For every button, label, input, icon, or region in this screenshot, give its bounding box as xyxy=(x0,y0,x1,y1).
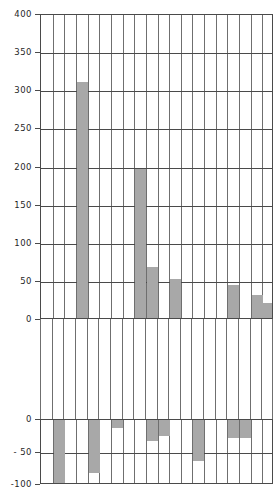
lower-plot-area xyxy=(40,419,273,484)
upper-axis-label: 400 xyxy=(0,9,32,19)
lower-axis-tick xyxy=(35,452,40,453)
upper-axis-label: 250 xyxy=(0,123,32,133)
bar-negative xyxy=(112,420,123,428)
upper-axis-tick xyxy=(35,281,40,282)
lower-column-gridline xyxy=(111,420,112,483)
bar-negative xyxy=(54,420,65,484)
bar-negative xyxy=(240,420,251,438)
upper-axis-tick xyxy=(35,319,40,320)
lower-panel xyxy=(0,0,278,497)
upper-axis-tick xyxy=(35,243,40,244)
lower-axis-tick xyxy=(35,484,40,485)
upper-axis-tick xyxy=(35,167,40,168)
upper-axis-label: 100 xyxy=(0,238,32,248)
bar-negative xyxy=(193,420,204,461)
upper-axis-label: 50 xyxy=(0,276,32,286)
lower-gridline xyxy=(41,453,272,454)
bar-negative xyxy=(159,420,170,436)
upper-axis-tick xyxy=(35,128,40,129)
lower-axis-label: - 50 xyxy=(0,447,32,457)
upper-axis-label: 200 xyxy=(0,162,32,172)
upper-axis-tick xyxy=(35,52,40,53)
upper-axis-tick xyxy=(35,14,40,15)
bar-negative xyxy=(89,420,100,473)
lower-column-gridline xyxy=(204,420,205,483)
lower-column-gridline xyxy=(251,420,252,483)
lower-column-gridline xyxy=(134,420,135,483)
upper-axis-label: 0 xyxy=(0,314,32,324)
upper-axis-label: 150 xyxy=(0,200,32,210)
upper-axis-label: 300 xyxy=(0,85,32,95)
bar-chart: Food productsTobacco productsTextile pro… xyxy=(0,0,278,497)
lower-column-gridline xyxy=(262,420,263,483)
lower-column-gridline xyxy=(181,420,182,483)
lower-column-gridline xyxy=(123,420,124,483)
upper-axis-label: 350 xyxy=(0,47,32,57)
lower-axis-label: 0 xyxy=(0,414,32,424)
upper-axis-tick xyxy=(35,90,40,91)
bar-negative xyxy=(228,420,239,438)
lower-axis-label: -100 xyxy=(0,479,32,489)
bar-negative xyxy=(147,420,158,441)
lower-column-gridline xyxy=(216,420,217,483)
lower-column-gridline xyxy=(76,420,77,483)
upper-axis-tick xyxy=(35,205,40,206)
lower-axis-tick xyxy=(35,419,40,420)
